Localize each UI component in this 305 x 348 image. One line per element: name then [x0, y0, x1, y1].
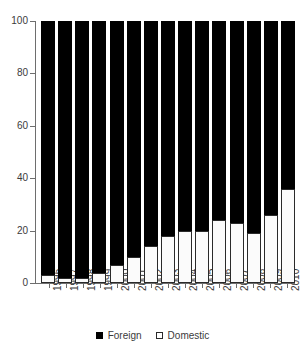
x-axis-tick	[151, 283, 152, 288]
bar-segment-domestic	[195, 231, 209, 283]
y-axis-tick	[30, 126, 35, 127]
y-axis-label: 40	[17, 173, 28, 183]
x-axis-tick	[100, 283, 101, 288]
bar-column	[264, 21, 278, 283]
y-axis-tick	[30, 21, 35, 22]
bar-segment-foreign	[281, 21, 295, 189]
bar-column	[281, 21, 295, 283]
x-axis-tick	[66, 283, 67, 288]
bar-segment-foreign	[127, 21, 141, 257]
bar-segment-foreign	[247, 21, 261, 233]
x-axis-tick	[134, 283, 135, 288]
bar-segment-foreign	[110, 21, 124, 265]
bar-segment-foreign	[178, 21, 192, 231]
bar-segment-domestic	[58, 278, 72, 283]
filled-square-icon	[96, 332, 103, 339]
bar-segment-foreign	[230, 21, 244, 223]
bar-segment-domestic	[75, 278, 89, 283]
bar-segment-domestic	[110, 265, 124, 283]
x-axis-tick	[236, 283, 237, 288]
chart-legend: Foreign Domestic	[0, 330, 305, 341]
bar-column	[41, 21, 55, 283]
x-axis-tick	[117, 283, 118, 288]
bar-segment-domestic	[127, 257, 141, 283]
bar-column	[212, 21, 226, 283]
bar-segment-domestic	[212, 220, 226, 283]
bar-segment-domestic	[264, 215, 278, 283]
y-axis-tick	[30, 231, 35, 232]
bar-segment-domestic	[92, 273, 106, 283]
y-axis-tick	[30, 73, 35, 74]
y-axis-label: 0	[22, 278, 28, 288]
bar-column	[144, 21, 158, 283]
bar-column	[127, 21, 141, 283]
y-axis-line	[35, 21, 36, 283]
bar-segment-foreign	[75, 21, 89, 278]
bar-segment-foreign	[264, 21, 278, 215]
legend-label-domestic: Domestic	[168, 330, 210, 341]
legend-item-foreign: Foreign	[96, 330, 142, 341]
x-axis-tick	[202, 283, 203, 288]
stacked-bar-chart: 020406080100 199619971998199920002001200…	[0, 0, 305, 348]
x-axis-tick	[83, 283, 84, 288]
y-axis-label: 60	[17, 121, 28, 131]
bar-segment-domestic	[230, 223, 244, 283]
bar-segment-domestic	[247, 233, 261, 283]
x-axis-tick	[168, 283, 169, 288]
bar-segment-domestic	[281, 189, 295, 283]
bar-column	[230, 21, 244, 283]
bar-column	[178, 21, 192, 283]
bar-segment-foreign	[144, 21, 158, 246]
bar-segment-foreign	[161, 21, 175, 236]
bar-segment-foreign	[58, 21, 72, 278]
bar-segment-domestic	[41, 275, 55, 283]
x-axis-tick	[287, 283, 288, 288]
bar-segment-foreign	[92, 21, 106, 273]
bar-segment-domestic	[144, 246, 158, 283]
legend-item-domestic: Domestic	[156, 330, 210, 341]
y-axis-label: 80	[17, 68, 28, 78]
y-axis-tick	[30, 178, 35, 179]
bar-segment-foreign	[212, 21, 226, 220]
x-axis-tick	[219, 283, 220, 288]
bar-column	[92, 21, 106, 283]
x-axis-tick	[253, 283, 254, 288]
x-axis-tick	[49, 283, 50, 288]
bar-segment-domestic	[161, 236, 175, 283]
plot-area	[41, 21, 295, 283]
x-axis-tick	[185, 283, 186, 288]
bar-column	[75, 21, 89, 283]
bar-segment-foreign	[41, 21, 55, 275]
bar-column	[58, 21, 72, 283]
bar-column	[195, 21, 209, 283]
bar-segment-domestic	[178, 231, 192, 283]
bar-column	[247, 21, 261, 283]
bar-column	[161, 21, 175, 283]
hollow-square-icon	[156, 332, 163, 339]
legend-label-foreign: Foreign	[108, 330, 142, 341]
y-axis-label: 100	[11, 16, 28, 26]
y-axis-label: 20	[17, 226, 28, 236]
bar-column	[110, 21, 124, 283]
bar-segment-foreign	[195, 21, 209, 231]
x-axis-tick	[270, 283, 271, 288]
